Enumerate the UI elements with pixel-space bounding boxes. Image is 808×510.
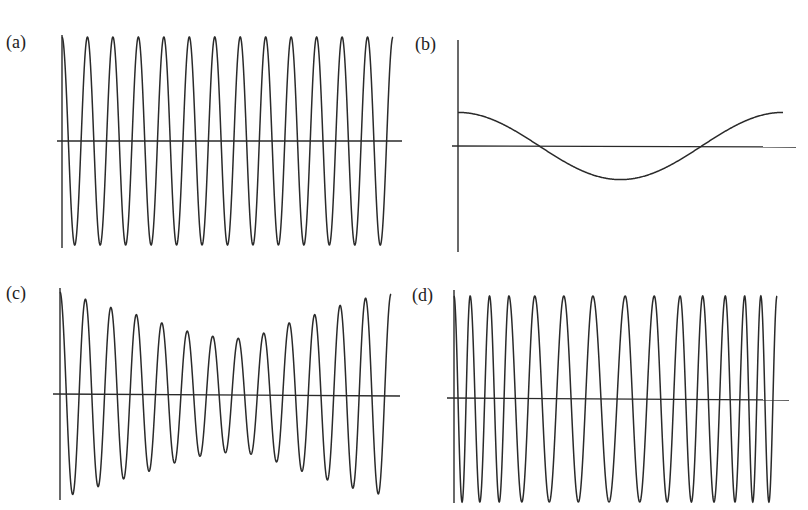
panel-d [447, 290, 789, 503]
panel-c-waveform [60, 292, 391, 494]
panel-a [57, 35, 402, 248]
panel-b [452, 40, 796, 252]
panel-d-x-axis [447, 398, 789, 400]
panel-c [53, 288, 400, 500]
figure-canvas [0, 0, 808, 510]
panel-b-x-axis [452, 146, 796, 147]
